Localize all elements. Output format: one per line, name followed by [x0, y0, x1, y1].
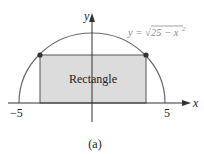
x-tick-5: 5: [164, 106, 170, 120]
corner-point-right: [143, 52, 148, 57]
equation-label: y = √ 25 − x 2: [127, 25, 186, 38]
x-tick-neg5: −5: [10, 106, 23, 120]
y-axis-arrow-icon: [89, 13, 95, 22]
equation-lhs: y =: [127, 27, 142, 38]
corner-point-left: [37, 52, 42, 57]
equation-radicand: 25 − x: [151, 27, 179, 38]
y-axis-label: y: [83, 9, 90, 23]
rectangle-label: Rectangle: [69, 72, 117, 86]
semicircle-rectangle-diagram: y x −5 5 Rectangle (a) y = √ 25 − x 2: [0, 0, 204, 154]
figure-caption: (a): [88, 137, 101, 151]
x-axis-arrow-icon: [182, 100, 191, 106]
equation-exponent: 2: [182, 25, 186, 33]
x-axis-label: x: [192, 96, 199, 110]
